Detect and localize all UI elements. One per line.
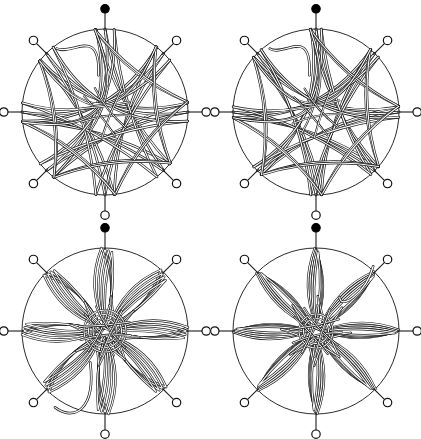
- node-se-marker[interactable]: [172, 179, 180, 187]
- knot-diagram-top-right-canvas: [211, 0, 421, 220]
- node-w-marker[interactable]: [0, 327, 8, 335]
- node-n-marker[interactable]: [312, 5, 320, 13]
- knot-diagram-top-left-canvas: [0, 0, 211, 220]
- node-nw-marker[interactable]: [240, 255, 248, 263]
- spoke-node-ne: [162, 262, 173, 273]
- node-ne-marker[interactable]: [383, 255, 391, 263]
- spoke-node-se: [373, 169, 384, 180]
- node-e-marker[interactable]: [202, 108, 210, 116]
- knot-diagram-bottom-left-canvas: [0, 219, 211, 439]
- node-w-marker[interactable]: [211, 327, 219, 335]
- node-nw-marker[interactable]: [29, 255, 37, 263]
- node-e-marker[interactable]: [202, 327, 210, 335]
- node-e-marker[interactable]: [413, 108, 421, 116]
- spoke-node-ne: [373, 262, 384, 273]
- node-ne-marker[interactable]: [172, 255, 180, 263]
- node-n-marker[interactable]: [101, 5, 109, 13]
- node-se-marker[interactable]: [172, 398, 180, 406]
- spoke-node-sw: [36, 388, 47, 399]
- spoke-node-sw: [36, 169, 47, 180]
- node-se-marker[interactable]: [383, 398, 391, 406]
- node-sw-marker[interactable]: [240, 179, 248, 187]
- spoke-node-nw: [247, 43, 258, 54]
- node-nw-marker[interactable]: [29, 36, 37, 44]
- spoke-node-ne: [373, 43, 384, 54]
- node-ne-marker[interactable]: [172, 36, 180, 44]
- spoke-node-nw: [36, 262, 47, 273]
- spoke-node-nw: [36, 43, 47, 54]
- spoke-node-ne: [162, 43, 173, 54]
- node-sw-marker[interactable]: [29, 179, 37, 187]
- knot-diagram-bottom-right: [211, 219, 421, 439]
- knot-diagram-bottom-left: [0, 219, 211, 439]
- node-s-marker[interactable]: [312, 430, 320, 438]
- strand-loop: [367, 49, 379, 166]
- spoke-node-sw: [247, 169, 258, 180]
- spoke-node-nw: [247, 262, 258, 273]
- node-e-marker[interactable]: [413, 327, 421, 335]
- spoke-node-se: [162, 388, 173, 399]
- node-s-marker[interactable]: [101, 430, 109, 438]
- node-w-marker[interactable]: [0, 108, 8, 116]
- spoke-node-se: [162, 169, 173, 180]
- node-n-marker[interactable]: [312, 224, 320, 232]
- spoke-node-se: [373, 388, 384, 399]
- spoke-node-sw: [247, 388, 258, 399]
- node-n-marker[interactable]: [101, 224, 109, 232]
- node-se-marker[interactable]: [383, 179, 391, 187]
- knot-diagram-bottom-right-canvas: [211, 219, 421, 439]
- knot-diagram-top-left: [0, 0, 211, 220]
- node-nw-marker[interactable]: [240, 36, 248, 44]
- node-sw-marker[interactable]: [29, 398, 37, 406]
- knot-diagram-top-right: [211, 0, 421, 220]
- node-sw-marker[interactable]: [240, 398, 248, 406]
- node-w-marker[interactable]: [211, 108, 219, 116]
- node-ne-marker[interactable]: [383, 36, 391, 44]
- knot-diagram-figure: [0, 0, 421, 439]
